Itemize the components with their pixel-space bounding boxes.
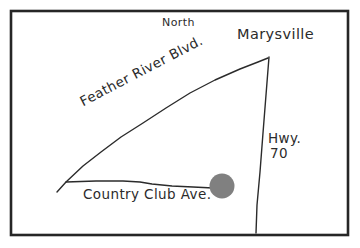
- hand-drawn-map-figure: North Marysville Feather River Blvd. Hwy…: [0, 0, 360, 248]
- map-label-country-club-ave: Country Club Ave.: [83, 187, 211, 202]
- site-location-marker-icon: [210, 174, 235, 199]
- map-label-marysville: Marysville: [237, 26, 314, 42]
- map-label-north: North: [162, 17, 195, 29]
- map-label-hwy-70: Hwy. 70: [268, 131, 301, 161]
- map-label-hwy-name: Hwy.: [268, 130, 301, 146]
- road-line-feather-river-blvd: [57, 58, 268, 192]
- map-label-hwy-number: 70: [268, 146, 301, 161]
